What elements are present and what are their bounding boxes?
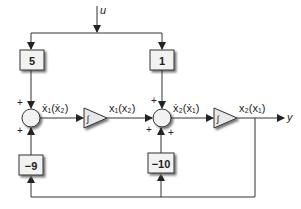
integrator-block-2: ∫	[214, 108, 237, 128]
summing-junction-2: + + +	[146, 95, 174, 138]
input-label: u	[100, 4, 106, 16]
sign-plus: +	[17, 97, 23, 108]
sign-plus: +	[168, 127, 174, 138]
gain-value: −9	[25, 160, 38, 172]
sign-plus: +	[146, 124, 152, 135]
gain-block-neg9: −9	[19, 155, 43, 175]
signal-label-x2dot: ẋ₂(ẋ₁)	[173, 102, 199, 114]
input-u: u	[97, 4, 106, 32]
gain-block-5: 5	[20, 50, 44, 70]
gain-block-1: 1	[150, 50, 174, 70]
signal-label-x1dot: ẋ₁(ẋ₂)	[42, 102, 68, 114]
gain-value: 1	[159, 55, 165, 67]
sign-plus: +	[17, 125, 23, 136]
output-label: y	[286, 111, 294, 123]
sign-plus: +	[151, 95, 157, 106]
block-diagram: u 5 1 + + ẋ₁(ẋ₂) ∫ x₁(x₂) + + + ẋ₂(ẋ₁)	[0, 0, 301, 209]
signal-label-x1: x₁(x₂)	[109, 102, 135, 114]
signal-label-x2: x₂(x₁)	[239, 102, 265, 114]
integrator-block-1: ∫	[84, 108, 107, 128]
summing-junction-1: + +	[17, 97, 40, 136]
gain-block-neg10: −10	[148, 153, 174, 173]
gain-value: 5	[29, 55, 35, 67]
gain-value: −10	[152, 158, 171, 170]
